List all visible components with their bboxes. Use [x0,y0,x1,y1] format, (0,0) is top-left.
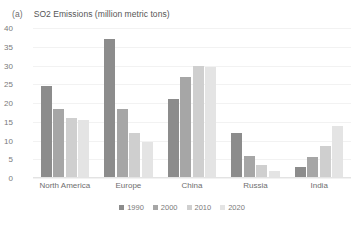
bar [53,109,64,178]
y-axis-tick-label: 25 [0,80,13,89]
bar [320,146,331,178]
bar [244,156,255,179]
bar [193,66,204,179]
bar [332,126,343,179]
panel-tag: (a) [12,9,23,19]
bar-group [295,28,344,178]
bar-group [168,28,217,178]
bar [205,67,216,178]
y-axis-tick-label: 30 [0,61,13,70]
legend-label: 2000 [161,203,178,212]
chart-title: SO2 Emissions (million metric tons) [34,9,170,19]
bar-group [231,28,280,178]
bar [180,77,191,178]
bar-groups [33,28,351,178]
bar [78,120,89,178]
bar [168,99,179,178]
y-axis-tick-label: 0 [0,174,13,183]
legend-swatch [187,205,192,210]
bar [104,39,115,178]
legend-label: 2010 [195,203,212,212]
bar [307,157,318,178]
bar [231,133,242,178]
y-axis-tick-label: 20 [0,99,13,108]
bar [41,86,52,178]
chart-header: (a) SO2 Emissions (million metric tons) [0,6,364,22]
y-axis-tick-label: 15 [0,117,13,126]
legend-swatch [119,205,124,210]
legend-label: 1990 [127,203,144,212]
plot-area: 4035302520151050 [33,28,351,178]
gridline [33,178,351,179]
bar [129,133,140,178]
bar [66,118,77,178]
bar [117,109,128,178]
legend-item[interactable]: 2010 [187,203,212,212]
bar-group [41,28,90,178]
y-axis-tick-label: 35 [0,42,13,51]
chart-figure: (a) SO2 Emissions (million metric tons) … [0,0,364,227]
legend-swatch [220,205,225,210]
legend-item[interactable]: 2020 [220,203,245,212]
y-axis-tick-label: 40 [0,24,13,33]
legend-item[interactable]: 2000 [153,203,178,212]
bar-group [104,28,153,178]
y-axis-tick-label: 10 [0,136,13,145]
legend-item[interactable]: 1990 [119,203,144,212]
chart-legend: 1990200020102020 [0,203,364,212]
x-axis-line [33,177,351,178]
plot-frame: 4035302520151050 [33,28,351,178]
legend-label: 2020 [228,203,245,212]
legend-swatch [153,205,158,210]
y-axis-tick-label: 5 [0,155,13,164]
bar [142,142,153,178]
